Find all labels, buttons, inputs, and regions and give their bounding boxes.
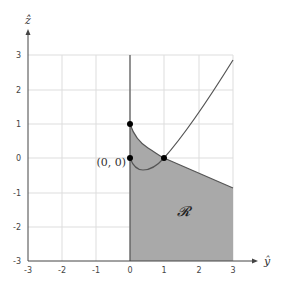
svg-text:-3: -3 bbox=[13, 257, 21, 266]
y-tick-labels: 3 2 1 0 -1 -2 -3 bbox=[13, 51, 21, 266]
svg-text:0: 0 bbox=[127, 266, 132, 275]
svg-text:-3: -3 bbox=[24, 266, 32, 275]
region-r bbox=[130, 124, 233, 261]
point-1-0 bbox=[161, 155, 167, 161]
x-tick-labels: -3 -2 -1 0 1 2 3 bbox=[24, 266, 236, 275]
svg-text:0: 0 bbox=[16, 154, 21, 163]
x-axis-arrow-icon bbox=[252, 259, 258, 264]
origin-label: (0, 0) bbox=[96, 156, 126, 169]
svg-text:1: 1 bbox=[16, 120, 21, 129]
svg-text:3: 3 bbox=[230, 266, 235, 275]
svg-text:-2: -2 bbox=[58, 266, 66, 275]
point-0-0 bbox=[127, 155, 133, 161]
svg-text:2: 2 bbox=[196, 266, 201, 275]
y-axis-label: ẑ bbox=[24, 14, 31, 27]
svg-text:2: 2 bbox=[16, 86, 21, 95]
y-axis-arrow-icon bbox=[26, 29, 31, 35]
x-axis-label: ŷ bbox=[263, 255, 271, 268]
svg-text:-1: -1 bbox=[13, 189, 21, 198]
svg-text:1: 1 bbox=[161, 266, 166, 275]
chart: -3 -2 -1 0 1 2 3 3 2 1 0 -1 -2 -3 (0, 0)… bbox=[0, 0, 284, 289]
point-0-1 bbox=[127, 121, 133, 127]
svg-text:-2: -2 bbox=[13, 223, 21, 232]
svg-text:-1: -1 bbox=[92, 266, 100, 275]
svg-text:3: 3 bbox=[16, 51, 21, 60]
